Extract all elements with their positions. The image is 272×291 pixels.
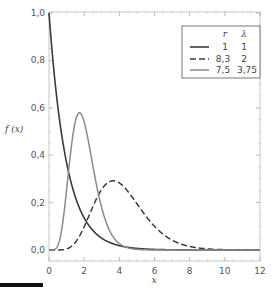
y-axis-label: f (x) — [4, 124, 24, 134]
y-tick-label: 0,2 — [31, 198, 45, 208]
legend-r-3: 7,5 — [216, 65, 230, 75]
legend: r λ 1 1 8,3 2 7,5 3,75 — [182, 26, 260, 78]
legend-header-lambda: λ — [240, 29, 247, 39]
gamma-density-chart: 0,00,20,40,60,81,0 024681012 f (x) x r λ… — [0, 0, 272, 291]
legend-lambda-1: 1 — [241, 42, 247, 52]
legend-lambda-2: 2 — [241, 54, 247, 64]
y-tick-label: 1,0 — [31, 8, 46, 18]
legend-r-2: 8,3 — [216, 54, 230, 64]
density-curve-2 — [49, 181, 260, 250]
x-tick-label: 8 — [187, 266, 193, 276]
legend-lambda-3: 3,75 — [237, 65, 257, 75]
density-curve-3 — [49, 113, 260, 250]
y-tick-label: 0,0 — [31, 245, 46, 255]
x-axis-label: x — [151, 275, 156, 285]
y-tick-label: 0,4 — [31, 150, 46, 160]
x-tick-label: 0 — [46, 266, 52, 276]
x-tick-label: 12 — [254, 266, 265, 276]
y-tick-label: 0,6 — [31, 103, 46, 113]
legend-r-1: 1 — [222, 42, 228, 52]
x-tick-label: 2 — [81, 266, 87, 276]
x-tick-label: 10 — [219, 266, 231, 276]
scale-bar — [0, 283, 43, 287]
legend-header-r: r — [223, 29, 228, 39]
x-tick-label: 4 — [116, 266, 122, 276]
y-tick-label: 0,8 — [31, 55, 46, 65]
